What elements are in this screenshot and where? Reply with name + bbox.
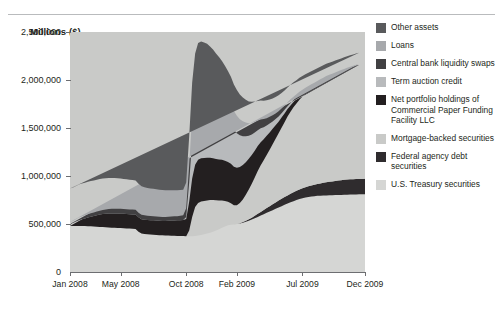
x-tick-label: Oct 2008 xyxy=(169,279,204,289)
y-tick-label: 1,000,000 xyxy=(21,171,61,181)
x-tick-mark xyxy=(121,272,122,276)
chart-legend: Other assetsLoansCentral bank liquidity … xyxy=(376,22,500,197)
x-tick-mark xyxy=(70,272,71,276)
legend-label: Term auction credit xyxy=(391,76,462,87)
x-tick-mark xyxy=(302,272,303,276)
legend-label: Other assets xyxy=(391,22,438,33)
x-axis-line xyxy=(70,272,366,273)
x-tick-mark xyxy=(237,272,238,276)
legend-swatch-icon xyxy=(376,134,386,144)
legend-label: Loans xyxy=(391,40,414,51)
legend-swatch-icon xyxy=(376,23,386,33)
chart-page: Millions ($) 0500,0001,000,0001,500,0002… xyxy=(0,0,503,309)
x-tick-label: Jan 2008 xyxy=(52,279,87,289)
header-divider xyxy=(8,14,495,15)
y-axis-labels: 0500,0001,000,0001,500,0002,000,0002,500… xyxy=(0,0,70,309)
y-tick-mark xyxy=(66,80,71,81)
y-tick-mark xyxy=(66,176,71,177)
legend-item[interactable]: Other assets xyxy=(376,22,500,33)
legend-label: U.S. Treasury securities xyxy=(391,179,480,190)
x-tick-label: Jul 2009 xyxy=(286,279,319,289)
y-tick-label: 2,500,000 xyxy=(21,27,61,37)
legend-swatch-icon xyxy=(376,95,386,105)
legend-swatch-icon xyxy=(376,41,386,51)
x-tick-mark xyxy=(365,272,366,276)
legend-item[interactable]: Central bank liquidity swaps xyxy=(376,58,500,69)
legend-item[interactable]: Federal agency debt securities xyxy=(376,151,500,172)
legend-label: Net portfolio holdings of Commercial Pap… xyxy=(391,94,495,126)
y-tick-mark xyxy=(66,224,71,225)
legend-item[interactable]: Mortgage-backed securities xyxy=(376,133,500,144)
legend-item[interactable]: Loans xyxy=(376,40,500,51)
footer-note xyxy=(8,301,428,308)
legend-item[interactable]: Net portfolio holdings of Commercial Pap… xyxy=(376,94,500,126)
stacked-area-series xyxy=(70,32,365,272)
legend-label: Federal agency debt securities xyxy=(391,151,495,172)
x-tick-label: May 2008 xyxy=(102,279,140,289)
legend-swatch-icon xyxy=(376,180,386,190)
legend-item[interactable]: Term auction credit xyxy=(376,76,500,87)
legend-swatch-icon xyxy=(376,77,386,87)
y-tick-label: 2,000,000 xyxy=(21,75,61,85)
y-tick-label: 1,500,000 xyxy=(21,123,61,133)
y-tick-mark xyxy=(66,32,71,33)
y-tick-label: 500,000 xyxy=(28,219,61,229)
legend-swatch-icon xyxy=(376,59,386,69)
legend-item[interactable]: U.S. Treasury securities xyxy=(376,179,500,190)
x-tick-mark xyxy=(186,272,187,276)
y-tick-mark xyxy=(66,128,71,129)
x-tick-label: Dec 2009 xyxy=(347,279,384,289)
x-tick-label: Feb 2009 xyxy=(219,279,255,289)
legend-label: Mortgage-backed securities xyxy=(391,133,494,144)
legend-swatch-icon xyxy=(376,152,386,162)
y-tick-label: 0 xyxy=(56,267,61,277)
legend-label: Central bank liquidity swaps xyxy=(391,58,495,69)
plot-area xyxy=(70,32,365,272)
